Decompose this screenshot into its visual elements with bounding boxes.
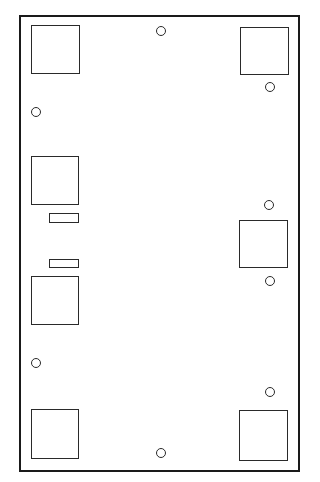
- square-pad-top-left: [31, 25, 80, 74]
- square-pad-top-right: [240, 27, 289, 75]
- square-pad-bottom-right: [239, 410, 288, 461]
- square-pad-mid-left-lower: [31, 276, 79, 325]
- hole-right-lower: [265, 387, 275, 397]
- hole-left-lower: [31, 358, 41, 368]
- hole-top-center: [156, 26, 166, 36]
- hole-right-mid-lower: [265, 276, 275, 286]
- square-pad-mid-left-upper: [31, 156, 79, 205]
- square-pad-bottom-left: [31, 409, 79, 459]
- square-pad-mid-right: [239, 220, 288, 268]
- slot-upper: [49, 213, 79, 223]
- hole-bottom-center: [156, 448, 166, 458]
- slot-lower: [49, 259, 79, 268]
- hole-right-mid-upper: [264, 200, 274, 210]
- hole-left-upper: [31, 107, 41, 117]
- hole-top-right: [265, 82, 275, 92]
